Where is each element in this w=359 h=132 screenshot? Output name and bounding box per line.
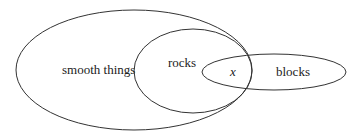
- set-blocks-label: blocks: [276, 64, 310, 79]
- venn-diagram: smooth things rocks blocks x: [0, 0, 359, 132]
- element-x-label: x: [229, 64, 236, 79]
- set-blocks-ellipse: [202, 54, 346, 90]
- set-smooth-things-label: smooth things: [62, 62, 135, 77]
- venn-svg: smooth things rocks blocks x: [0, 0, 359, 132]
- set-rocks-label: rocks: [168, 55, 196, 70]
